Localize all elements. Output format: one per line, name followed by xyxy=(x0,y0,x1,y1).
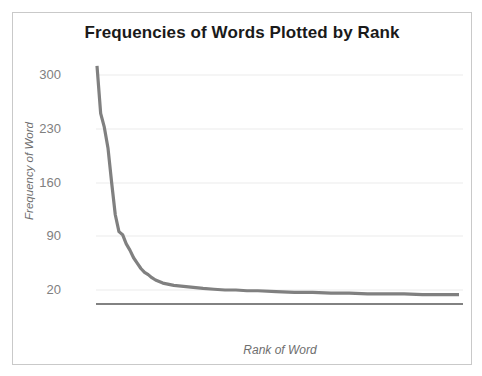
gridlines xyxy=(96,75,463,290)
plot-area xyxy=(13,13,473,366)
frequency-curve xyxy=(97,66,459,295)
chart-container: Frequencies of Words Plotted by Rank 300… xyxy=(12,12,472,365)
